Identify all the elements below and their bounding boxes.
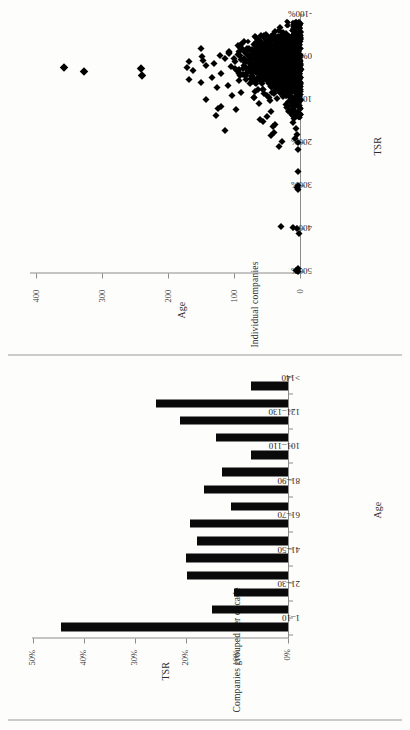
scatter-ytick-mark-100 bbox=[234, 273, 235, 278]
scatter-ytick-100: 100 bbox=[229, 289, 239, 302]
bars-category-labels: 1–1021–3041–5061–7081–90101–110121–130>1… bbox=[298, 377, 368, 635]
scatter-y-axis-title: Age bbox=[176, 301, 187, 318]
scatter-point bbox=[278, 137, 285, 144]
scatter-ytick-mark-400 bbox=[36, 273, 37, 278]
scatter-point bbox=[255, 99, 262, 106]
bars-ytick-40: 40% bbox=[78, 649, 88, 665]
panel-companies-per-decade: Companies grouped per decade TSR 0% 10% … bbox=[0, 365, 410, 730]
bars-ytick-30: 30% bbox=[129, 649, 139, 665]
bars-ytick-mark-30 bbox=[135, 638, 136, 643]
scatter-point bbox=[295, 146, 302, 153]
scatter-point bbox=[60, 62, 68, 70]
scatter-point bbox=[197, 79, 204, 86]
bar bbox=[61, 622, 288, 631]
scatter-point bbox=[245, 38, 251, 44]
bars-ytick-mark-20 bbox=[186, 638, 187, 643]
bars-side-rule bbox=[8, 719, 402, 720]
scatter-x-axis-title: TSR bbox=[372, 137, 383, 155]
bars-category-label: 1–10 bbox=[282, 612, 300, 622]
bars-category-tick bbox=[288, 634, 293, 635]
bars-ytick-20: 20% bbox=[180, 649, 190, 665]
bars-category-tick bbox=[288, 393, 293, 394]
bars-ytick-mark-0 bbox=[288, 638, 289, 643]
scatter-point bbox=[222, 127, 229, 134]
scatter-point bbox=[277, 222, 284, 229]
scatter-side-label: Individual companies bbox=[250, 261, 260, 347]
scatter-point bbox=[137, 64, 145, 72]
scatter-point bbox=[295, 167, 302, 174]
scatter-point bbox=[218, 69, 225, 76]
scatter-point bbox=[232, 105, 239, 112]
bar bbox=[187, 571, 288, 580]
bars-x-axis-title: Age bbox=[372, 501, 383, 518]
bars-category-label: >140 bbox=[281, 372, 300, 382]
scatter-chart-canvas: Individual companies Age 0 100 200 300 4… bbox=[0, 0, 410, 365]
bars-ytick-50: 50% bbox=[27, 649, 37, 665]
bars-category-tick bbox=[288, 496, 293, 497]
bars-category-tick bbox=[288, 531, 293, 532]
bar bbox=[186, 553, 288, 562]
bar bbox=[190, 519, 288, 528]
bars-y-axis-title: TSR bbox=[160, 662, 171, 680]
bars-category-tick bbox=[288, 600, 293, 601]
bars-category-label: 21–30 bbox=[278, 578, 301, 588]
scatter-point bbox=[238, 88, 245, 95]
bar bbox=[204, 485, 288, 494]
scatter-ytick-200: 200 bbox=[163, 289, 173, 302]
bars-category-tick bbox=[288, 565, 293, 566]
bars-category-label: 101–110 bbox=[269, 440, 300, 450]
bars-ytick-mark-50 bbox=[33, 638, 34, 643]
bars-layer bbox=[33, 377, 288, 635]
bars-category-label: 121–130 bbox=[269, 406, 301, 416]
bars-category-label: 81–90 bbox=[278, 475, 301, 485]
bar bbox=[234, 588, 288, 597]
bars-category-tick bbox=[288, 428, 293, 429]
scatter-point bbox=[197, 44, 204, 51]
bars-ytick-mark-40 bbox=[84, 638, 85, 643]
bar bbox=[251, 450, 288, 459]
scatter-point bbox=[213, 84, 220, 91]
scatter-point bbox=[270, 128, 277, 135]
scatter-ytick-0: 0 bbox=[295, 289, 305, 293]
scatter-ytick-mark-200 bbox=[168, 273, 169, 278]
bars-category-tick bbox=[288, 462, 293, 463]
bar-chart-canvas: Companies grouped per decade TSR 0% 10% … bbox=[0, 365, 410, 730]
bar bbox=[197, 536, 288, 545]
bars-category-label: 41–50 bbox=[278, 544, 301, 554]
bar bbox=[180, 416, 288, 425]
bars-y-axis-line bbox=[32, 637, 288, 638]
scatter-point bbox=[138, 71, 146, 79]
scatter-point bbox=[208, 73, 215, 80]
scatter-point bbox=[272, 121, 279, 128]
bar bbox=[212, 605, 289, 614]
bar bbox=[251, 381, 288, 390]
scatter-ytick-mark-300 bbox=[102, 273, 103, 278]
scatter-point bbox=[185, 75, 192, 82]
scatter-point bbox=[212, 111, 219, 118]
figure-page: Individual companies Age 0 100 200 300 4… bbox=[0, 0, 410, 730]
scatter-point bbox=[228, 91, 235, 98]
scatter-point bbox=[203, 95, 210, 102]
scatter-point bbox=[211, 60, 218, 67]
bars-ytick-10: 10% bbox=[231, 649, 241, 665]
scatter-points-layer bbox=[30, 15, 301, 273]
bars-ytick-0: 0% bbox=[282, 649, 292, 660]
panel-individual-companies: Individual companies Age 0 100 200 300 4… bbox=[0, 0, 410, 365]
bars-category-label: 61–70 bbox=[278, 509, 301, 519]
scatter-ytick-400: 400 bbox=[31, 289, 41, 302]
scatter-point bbox=[224, 81, 231, 88]
bars-ytick-mark-10 bbox=[237, 638, 238, 643]
scatter-ytick-300: 300 bbox=[97, 289, 107, 302]
scatter-side-rule bbox=[8, 354, 402, 355]
scatter-point bbox=[80, 67, 88, 75]
